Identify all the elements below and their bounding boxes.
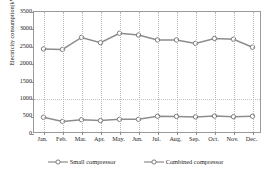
series-layer — [34, 12, 262, 134]
vertical-gridline — [253, 12, 254, 132]
legend-marker-icon — [144, 158, 164, 166]
legend-item-combined-compressor: Combined compressor — [144, 158, 224, 166]
vertical-gridline — [196, 12, 197, 132]
horizontal-gridline — [34, 99, 260, 100]
y-axis-tick-labels: 0500100015002000250030003500 — [12, 0, 32, 140]
y-tick-mark — [31, 82, 34, 83]
y-tick-label: 1000 — [12, 95, 32, 101]
y-tick-label: 1500 — [12, 78, 32, 84]
x-tick-label: Dec. — [237, 135, 267, 143]
series-line — [44, 116, 253, 121]
vertical-gridline — [215, 12, 216, 132]
vertical-gridline — [177, 12, 178, 132]
y-tick-mark — [31, 47, 34, 48]
plot-area — [33, 11, 261, 133]
y-tick-label: 500 — [12, 112, 32, 118]
vertical-gridline — [139, 12, 140, 132]
y-tick-mark — [31, 12, 34, 13]
vertical-gridline — [63, 12, 64, 132]
y-tick-label: 3500 — [12, 8, 32, 14]
vertical-gridline — [120, 12, 121, 132]
series-line — [44, 33, 253, 49]
vertical-gridline — [158, 12, 159, 132]
legend-label: Small compressor — [70, 158, 116, 166]
legend-label: Combined compressor — [166, 158, 224, 166]
legend-item-small-compressor: Small compressor — [48, 158, 116, 166]
y-tick-label: 2000 — [12, 60, 32, 66]
x-axis-tick-labels: Jan.Feb.Mar.Apr.May.Jun.Jul.Aug.Sep.Oct.… — [33, 135, 261, 147]
y-tick-mark — [31, 117, 34, 118]
chart-figure: Electricity consumption(kWh) 05001000150… — [0, 0, 271, 172]
y-tick-mark — [31, 64, 34, 65]
y-tick-mark — [31, 29, 34, 30]
vertical-gridline — [101, 12, 102, 132]
chart-legend: Small compressor Combined compressor — [0, 155, 271, 169]
vertical-gridline — [82, 12, 83, 132]
vertical-gridline — [44, 12, 45, 132]
vertical-gridline — [234, 12, 235, 132]
legend-marker-icon — [48, 158, 68, 166]
y-tick-label: 2500 — [12, 43, 32, 49]
y-tick-label: 3000 — [12, 25, 32, 31]
